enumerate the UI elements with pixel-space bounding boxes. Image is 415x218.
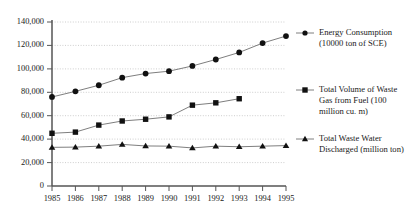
triangle-marker-icon — [302, 136, 308, 141]
chart-figure: 140,000 120,000 100,000 80,000 60,000 40… — [0, 0, 415, 218]
y-tick-label: 60,000 — [21, 111, 44, 120]
square-marker-icon — [302, 87, 307, 92]
legend-label-line2: Gas from Fuel (100 — [319, 95, 387, 105]
circle-marker-icon — [73, 88, 79, 94]
x-tick-label: 1991 — [184, 194, 201, 203]
y-tick-label: 40,000 — [21, 134, 44, 143]
legend-entry-waste-gas[interactable]: Total Volume of Waste Gas from Fuel (100… — [296, 84, 397, 116]
legend-label-line1: Total Volume of Waste — [319, 84, 397, 94]
x-axis-tick-labels: 1985 1986 1987 1988 1989 1990 1991 1992 … — [44, 194, 295, 203]
y-axis-tick-labels: 140,000 120,000 100,000 80,000 60,000 40… — [17, 17, 44, 190]
legend-entry-energy-consumption[interactable]: Energy Consumption (10000 ton of SCE) — [296, 27, 393, 48]
circle-marker-icon — [190, 63, 196, 69]
legend: Energy Consumption (10000 ton of SCE) To… — [296, 27, 404, 154]
square-marker-icon — [213, 100, 218, 105]
x-tick-label: 1985 — [44, 194, 61, 203]
legend-label-line1: Total Waste Water — [319, 133, 382, 143]
x-tick-label: 1986 — [67, 194, 84, 203]
line-chart: 140,000 120,000 100,000 80,000 60,000 40… — [0, 0, 415, 218]
square-marker-icon — [96, 122, 101, 127]
square-marker-icon — [166, 114, 171, 119]
triangle-marker-icon — [119, 141, 126, 147]
x-axis — [52, 186, 286, 191]
y-tick-label: 100,000 — [17, 64, 44, 73]
x-tick-label: 1988 — [114, 194, 131, 203]
series-triangle — [49, 141, 290, 150]
x-tick-label: 1990 — [161, 194, 178, 203]
gridlines — [52, 22, 286, 163]
circle-marker-icon — [236, 50, 242, 56]
legend-label-line1: Energy Consumption — [319, 27, 393, 37]
series-layer — [49, 33, 290, 150]
square-marker-icon — [73, 129, 78, 134]
y-tick-label: 0 — [40, 181, 44, 190]
legend-label-line2: (10000 ton of SCE) — [319, 38, 387, 48]
legend-label-line3: million cu. m) — [319, 106, 368, 116]
y-tick-label: 20,000 — [21, 158, 44, 167]
x-tick-label: 1995 — [278, 194, 295, 203]
circle-marker-icon — [119, 75, 125, 81]
y-axis — [47, 20, 52, 186]
square-marker-icon — [49, 131, 54, 136]
square-marker-icon — [120, 118, 125, 123]
circle-marker-icon — [143, 71, 149, 77]
square-marker-icon — [190, 102, 195, 107]
y-tick-label: 140,000 — [17, 17, 44, 26]
circle-marker-icon — [260, 40, 266, 46]
x-tick-label: 1993 — [231, 194, 248, 203]
square-marker-icon — [143, 117, 148, 122]
square-marker-icon — [237, 96, 242, 101]
x-tick-label: 1987 — [90, 194, 107, 203]
y-tick-label: 80,000 — [21, 87, 44, 96]
circle-marker-icon — [302, 30, 307, 35]
triangle-marker-icon — [213, 143, 220, 149]
y-tick-label: 120,000 — [17, 40, 44, 49]
x-tick-label: 1992 — [207, 194, 224, 203]
circle-marker-icon — [283, 33, 289, 39]
circle-marker-icon — [96, 82, 102, 88]
circle-marker-icon — [213, 57, 219, 63]
x-tick-label: 1994 — [254, 194, 272, 203]
circle-marker-icon — [49, 94, 55, 100]
series-circle — [49, 33, 289, 100]
legend-entry-waste-water[interactable]: Total Waste Water Discharged (million to… — [296, 133, 404, 154]
legend-label-line2: Discharged (million ton) — [319, 144, 404, 154]
circle-marker-icon — [166, 68, 172, 74]
triangle-marker-icon — [283, 142, 290, 148]
x-tick-label: 1989 — [137, 194, 154, 203]
